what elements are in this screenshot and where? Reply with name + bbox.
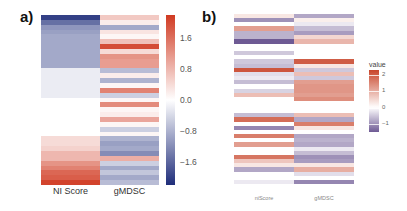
heatmap-cell — [234, 180, 294, 185]
colorbar-a-tick-label: 0.0 — [180, 95, 192, 105]
heatmap-cell — [294, 180, 354, 185]
colorbar-a-tick-label: −0.8 — [180, 126, 197, 136]
heatmap-cell — [294, 39, 354, 44]
heatmap-column — [234, 109, 294, 184]
colorbar-a-tick-label: 0.8 — [180, 64, 192, 74]
heatmap-column — [234, 51, 294, 101]
heatmap-column — [41, 15, 100, 185]
colorbar-b-tick-label: 2 — [382, 71, 385, 77]
heatmap-cell — [41, 180, 100, 185]
xlabel-gmdsc-b: gMDSC — [294, 195, 354, 201]
colorbar-b-tick-label: −1 — [382, 120, 389, 126]
heatmap-cell — [100, 180, 159, 185]
heatmap-b — [234, 14, 354, 184]
heatmap-column — [294, 109, 354, 184]
heatmap-a — [41, 15, 159, 185]
colorbar-a-tick-label: −1.6 — [180, 157, 197, 167]
heatmap-cell — [294, 97, 354, 102]
colorbar-a-tick-label: 1.6 — [180, 33, 192, 43]
heatmap-column — [234, 14, 294, 43]
colorbar-b-tick-label: 1 — [382, 87, 385, 93]
colorbar-b-tick-mark — [369, 108, 379, 109]
panel-b-label: b) — [202, 8, 216, 25]
colorbar-b-tick-mark — [369, 75, 379, 76]
heatmap-cell — [234, 39, 294, 44]
panel-a-label: a) — [20, 8, 33, 25]
colorbar-b-title: value — [369, 61, 386, 68]
colorbar-b-tick-mark — [369, 91, 379, 92]
xlabel-niscore: niScore — [234, 195, 294, 201]
heatmap-column — [100, 15, 159, 185]
xlabel-ni-score: NI Score — [41, 186, 100, 196]
colorbar-a — [166, 15, 175, 185]
xlabel-gmdsc-a: gMDSC — [100, 186, 159, 196]
heatmap-column — [294, 14, 354, 43]
colorbar-b — [369, 70, 379, 132]
heatmap-column — [294, 51, 354, 101]
colorbar-b-tick-label: 0 — [382, 104, 385, 110]
heatmap-cell — [234, 97, 294, 102]
colorbar-b-tick-mark — [369, 124, 379, 125]
